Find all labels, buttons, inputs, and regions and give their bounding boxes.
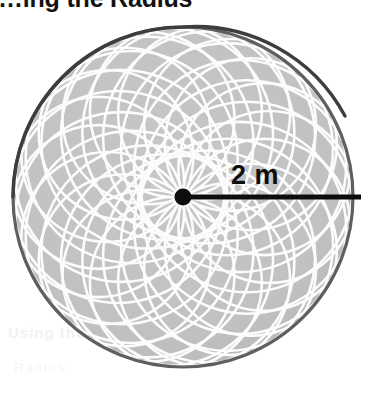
- circle-radius-figure: [0, 0, 379, 397]
- figure-page: …ing the Radius Using the Radius 2 m: [0, 0, 379, 397]
- center-point-dot: [175, 189, 192, 206]
- radius-measure-label: 2 m: [231, 160, 279, 191]
